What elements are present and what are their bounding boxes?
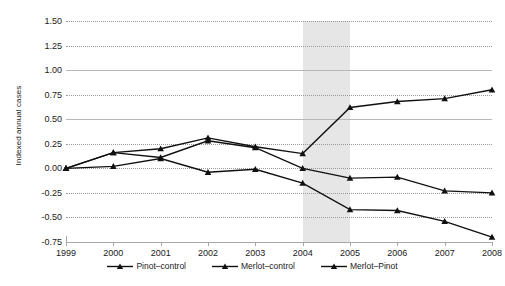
x-axis-tick-mark (66, 242, 67, 246)
x-axis-tick-label: 2001 (139, 249, 183, 258)
y-axis-tick-label: 0.50 (24, 115, 62, 124)
x-axis-tick-label: 2008 (470, 249, 505, 258)
series-line (66, 159, 492, 238)
x-axis-tick-label: 2000 (91, 249, 135, 258)
x-axis-tick-label: 2007 (423, 249, 467, 258)
x-axis-tick-label: 2003 (233, 249, 277, 258)
y-axis-tick-label: 0.25 (24, 140, 62, 149)
plot-area (66, 21, 492, 242)
y-axis-tick-label: -0.50 (24, 213, 62, 222)
series-layer (66, 21, 492, 242)
data-point-marker (205, 135, 212, 141)
legend-item-label: Merlot–control (241, 261, 295, 271)
x-axis-tick-label: 2002 (186, 249, 230, 258)
legend-marker-icon (107, 262, 133, 271)
x-axis-tick-mark (350, 242, 351, 246)
series-line (66, 90, 492, 169)
series-2 (63, 138, 496, 196)
series-1 (63, 155, 496, 240)
chart-figure: Indexed annual cases 1.501.251.000.750.5… (0, 0, 505, 286)
legend-marker-icon (321, 262, 347, 271)
x-axis-tick-label: 2005 (328, 249, 372, 258)
x-axis-line (66, 242, 493, 243)
y-axis-tick-label: 0.00 (24, 164, 62, 173)
legend-marker-icon (212, 262, 238, 271)
x-axis-tick-mark (161, 242, 162, 246)
chart-legend: Pinot–controlMerlot–controlMerlot–Pinot (0, 261, 505, 271)
y-axis-tick-label: 1.50 (24, 17, 62, 26)
y-axis-tick-label: -0.75 (24, 238, 62, 247)
x-axis-tick-label: 2004 (281, 249, 325, 258)
y-axis-tick-labels: 1.501.251.000.750.500.250.00-0.25-0.50-0… (18, 0, 62, 286)
x-axis-tick-label: 2006 (375, 249, 419, 258)
y-axis-tick-label: 0.75 (24, 91, 62, 100)
x-axis-tick-mark (492, 242, 493, 246)
y-axis-tick-label: 1.00 (24, 66, 62, 75)
y-axis-tick-label: -0.25 (24, 189, 62, 198)
x-axis-tick-label: 1999 (44, 249, 88, 258)
series-line (66, 141, 492, 193)
y-axis-tick-label: 1.25 (24, 42, 62, 51)
x-axis-tick-mark (397, 242, 398, 246)
legend-item-label: Merlot–Pinot (350, 261, 398, 271)
x-axis-tick-mark (255, 242, 256, 246)
x-axis-tick-mark (445, 242, 446, 246)
legend-item[interactable]: Pinot–control (107, 261, 186, 271)
legend-item-label: Pinot–control (136, 261, 186, 271)
legend-item[interactable]: Merlot–Pinot (321, 261, 398, 271)
x-axis-tick-mark (113, 242, 114, 246)
x-axis-tick-mark (208, 242, 209, 246)
data-point-marker (489, 86, 496, 92)
legend-item[interactable]: Merlot–control (212, 261, 295, 271)
x-axis-tick-mark (303, 242, 304, 246)
